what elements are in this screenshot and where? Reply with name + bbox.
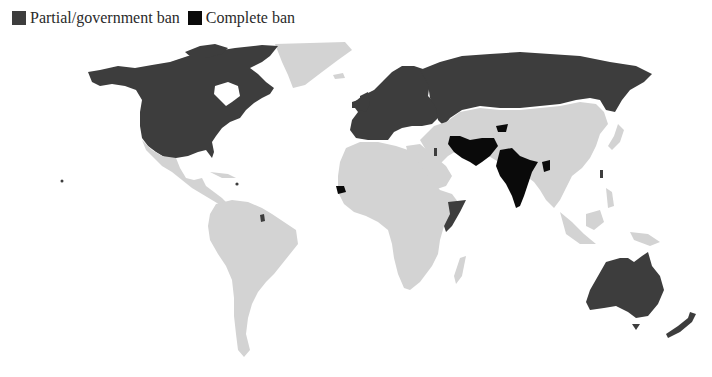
- world-map: [0, 0, 712, 377]
- region-new-zealand: [666, 312, 696, 338]
- region-borneo: [586, 210, 604, 230]
- region-iran-pakistan: [448, 136, 498, 166]
- region-new-guinea: [630, 232, 660, 246]
- region-tasmania: [632, 324, 640, 330]
- region-puerto-rico: [235, 182, 238, 185]
- region-japan: [608, 124, 624, 150]
- region-south-america: [208, 200, 298, 357]
- region-greenland: [275, 42, 352, 88]
- region-australia: [586, 252, 664, 318]
- region-taiwan: [600, 170, 603, 178]
- region-ireland: [352, 100, 358, 108]
- region-cuba: [210, 172, 236, 178]
- region-madagascar: [454, 256, 466, 284]
- region-north-america-partial: [88, 45, 278, 158]
- region-iceland: [333, 73, 345, 79]
- region-israel: [434, 148, 437, 156]
- region-hawaii: [61, 180, 64, 183]
- region-philippines: [606, 188, 614, 208]
